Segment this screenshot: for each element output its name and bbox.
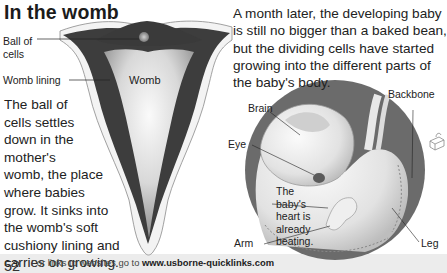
text-line: baby's <box>276 198 326 211</box>
text-line: cushiony lining and <box>4 237 154 255</box>
label-ball-of-cells: Ball of cells <box>3 35 32 61</box>
footer-prefix: For links to websites go to <box>31 257 142 268</box>
quicklinks-link[interactable]: www.usborne-quicklinks.com <box>142 257 274 268</box>
computer-mouse-icon[interactable] <box>430 133 444 150</box>
page-title: In the womb <box>4 1 119 24</box>
text-line: beating. <box>276 235 326 248</box>
label-line: Ball of <box>3 35 32 48</box>
ball-of-cells-icon <box>139 32 149 42</box>
label-line: cells <box>3 48 32 61</box>
text-line: heart is <box>276 210 326 223</box>
text-line: growing into the different parts of <box>233 57 447 74</box>
text-line: the womb's soft <box>4 219 154 237</box>
label-womb-lining: Womb lining <box>3 74 61 87</box>
text-line: down in the <box>4 131 154 149</box>
text-line: The ball of <box>4 96 154 114</box>
footer-text: For links to websites go to www.usborne-… <box>31 257 274 268</box>
label-eye: Eye <box>228 138 246 151</box>
text-line: already <box>276 223 326 236</box>
text-line: where babies <box>4 184 154 202</box>
label-backbone: Backbone <box>388 88 435 101</box>
heart-note: The baby's heart is already beating. <box>276 185 326 248</box>
text-line: cells settles <box>4 114 154 132</box>
text-line: is still no bigger than a baked bean, <box>233 22 447 39</box>
intro-paragraph: A month later, the developing baby is st… <box>233 5 447 91</box>
text-line: mother's <box>4 149 154 167</box>
label-brain: Brain <box>248 102 273 115</box>
left-paragraph: The ball of cells settles down in the mo… <box>4 96 154 272</box>
text-line: womb, the place <box>4 166 154 184</box>
label-womb: Womb <box>129 74 161 87</box>
label-leg: Leg <box>421 237 439 250</box>
text-line: A month later, the developing baby <box>233 5 447 22</box>
label-arm: Arm <box>234 237 253 250</box>
text-line: The <box>276 185 326 198</box>
text-line: grow. It sinks into <box>4 202 154 220</box>
text-line: but the dividing cells have started <box>233 40 447 57</box>
page-number: 52 <box>4 258 20 273</box>
